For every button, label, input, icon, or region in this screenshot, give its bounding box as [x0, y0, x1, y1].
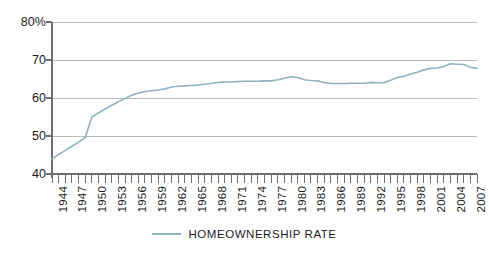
y-axis-line	[46, 22, 52, 178]
data-series-line	[52, 64, 477, 159]
chart-plot-area	[0, 0, 489, 253]
homeownership-rate-chart: 4050607080% 1944194719501953195619591962…	[0, 0, 489, 253]
legend-label: HOMEOWNERSHIP RATE	[188, 228, 336, 240]
gridlines	[52, 22, 477, 174]
chart-legend: HOMEOWNERSHIP RATE	[0, 228, 489, 240]
legend-line-swatch-icon	[152, 233, 181, 235]
x-axis-ticks	[52, 174, 477, 183]
